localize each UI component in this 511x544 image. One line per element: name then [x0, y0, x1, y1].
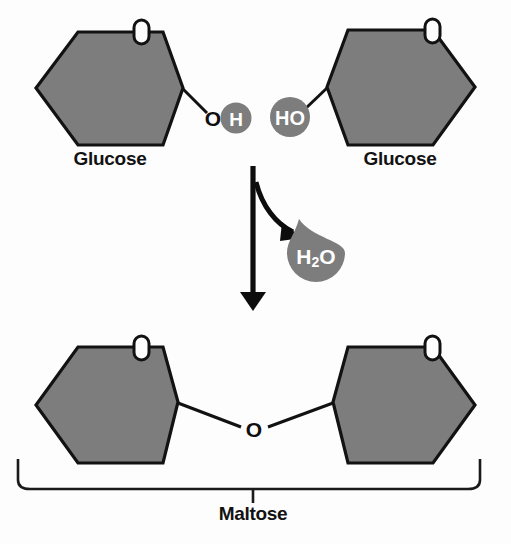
glucose-right-ring	[327, 30, 475, 145]
glucose-left-ring-oxygen	[134, 20, 149, 44]
maltose-bracket	[18, 459, 480, 503]
maltose-group: O	[36, 336, 475, 463]
water-release-arrow-curve	[256, 182, 293, 232]
glucose-left-oh-oxygen-label: O	[205, 107, 221, 130]
glucose-left-bond-to-oh	[183, 89, 207, 113]
glucose-right-bond-to-ho	[304, 88, 327, 110]
glucose-left-hydrogen-label: H	[229, 109, 243, 130]
maltose-label: Maltose	[190, 503, 316, 525]
glucose-left-group: O H	[36, 20, 252, 145]
glucose-left-ring	[36, 32, 183, 145]
reaction-arrow-head	[240, 292, 266, 311]
maltose-left-ring	[36, 347, 178, 463]
maltose-bond-left	[178, 403, 241, 427]
glucose-right-ho-label: HO	[275, 107, 305, 129]
glucose-right-ring-oxygen	[425, 19, 440, 43]
glucose-left-label: Glucose	[47, 148, 173, 170]
water-droplet-group: H2O	[287, 219, 345, 282]
water-formula-subscript: 2	[312, 254, 320, 270]
water-formula-o: O	[319, 245, 335, 268]
maltose-right-ring	[333, 347, 475, 463]
maltose-right-ring-oxygen	[425, 336, 440, 360]
glucose-right-group: HO	[270, 19, 475, 145]
water-formula-h: H	[296, 245, 311, 268]
reaction-arrow	[240, 166, 266, 311]
maltose-left-ring-oxygen	[134, 336, 149, 360]
glucose-right-label: Glucose	[337, 148, 463, 170]
diagram-canvas: O H HO H2O	[0, 0, 511, 544]
maltose-bond-right	[268, 403, 333, 427]
condensation-reaction-diagram: O H HO H2O	[0, 0, 511, 544]
maltose-glycosidic-oxygen-label: O	[246, 418, 262, 441]
